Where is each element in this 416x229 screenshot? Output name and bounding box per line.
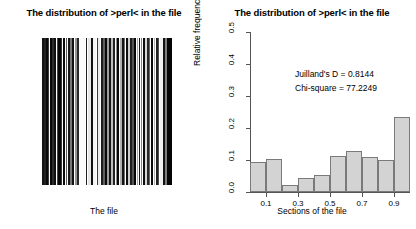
- barcode-x-axis-label: The file: [0, 206, 208, 216]
- barcode-line: [80, 38, 86, 185]
- y-axis-tick-label: 0.2: [228, 118, 244, 129]
- y-axis-tick-label: 0.3: [228, 86, 244, 97]
- y-axis-tick: [246, 64, 250, 65]
- histogram-panel: The distribution of >perl< in the file 0…: [208, 0, 416, 229]
- histogram-bar: [346, 151, 362, 192]
- x-axis-tick: [330, 193, 331, 197]
- y-axis-tick-label: 0.1: [228, 150, 244, 161]
- histogram-bar: [282, 185, 298, 192]
- annotation-juilland-d: Juilland's D = 0.8144: [295, 69, 374, 79]
- histogram-y-axis-label: Relative frequencies of 'perl': [192, 0, 202, 66]
- histogram-bar: [314, 175, 330, 192]
- y-axis-tick-label: 0.5: [228, 22, 244, 33]
- histogram-plot-area: 0.00.10.20.30.40.5 0.10.30.50.70.9 Juill…: [250, 32, 410, 192]
- histogram-bar: [266, 159, 282, 192]
- histogram-bar: [298, 178, 314, 192]
- x-axis-tick: [298, 193, 299, 197]
- y-axis-tick: [246, 128, 250, 129]
- x-axis-tick: [362, 193, 363, 197]
- histogram-bar: [362, 157, 378, 192]
- y-axis-tick: [246, 192, 250, 193]
- barcode-line: [167, 38, 172, 185]
- histogram-bar: [250, 162, 266, 192]
- y-axis-tick: [246, 32, 250, 33]
- histogram-x-axis-label: Sections of the file: [208, 206, 416, 216]
- barcode-panel-title: The distribution of >perl< in the file: [0, 7, 208, 18]
- barcode-line: [93, 38, 96, 185]
- x-axis-tick: [394, 193, 395, 197]
- y-axis-tick-label: 0.0: [228, 182, 244, 193]
- histogram-bar: [378, 160, 394, 192]
- y-axis-tick-label: 0.4: [228, 54, 244, 65]
- barcode-panel: The distribution of >perl< in the file T…: [0, 0, 208, 229]
- histogram-panel-title: The distribution of >perl< in the file: [208, 7, 416, 18]
- x-axis-tick: [266, 193, 267, 197]
- annotation-chi-square: Chi-square = 77.2249: [295, 83, 377, 93]
- y-axis-tick: [246, 96, 250, 97]
- histogram-bar: [394, 117, 410, 192]
- figure-root: The distribution of >perl< in the file T…: [0, 0, 416, 229]
- barcode-strip: [42, 38, 172, 185]
- histogram-bar: [330, 156, 346, 192]
- y-axis-tick: [246, 160, 250, 161]
